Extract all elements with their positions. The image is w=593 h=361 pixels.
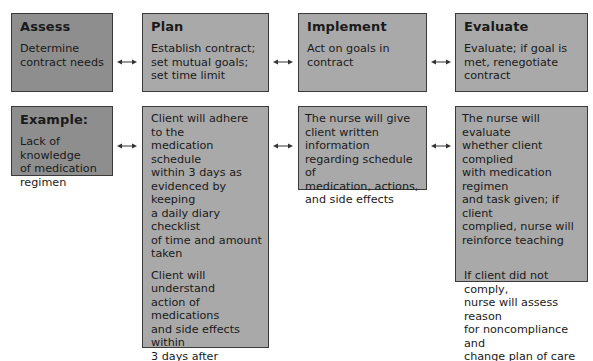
implement-example-text: The nurse will give client written infor… — [305, 112, 420, 207]
implement-text: Act on goals in contract — [307, 42, 420, 69]
plan-example-para-1: Client will adhere to the medication sch… — [151, 112, 262, 261]
assess-text: Determine contract needs — [20, 42, 106, 69]
example-box: Example: Lack of knowledge of medication… — [11, 106, 113, 176]
plan-example-box: Client will adhere to the medication sch… — [142, 106, 269, 348]
plan-box: Plan Establish contract; set mutual goal… — [142, 13, 269, 92]
plan-example-para-2: Client will understand action of medicat… — [151, 269, 262, 361]
double-headed-arrow-icon — [273, 59, 293, 65]
assess-box: Assess Determine contract needs — [11, 13, 113, 92]
implement-title: Implement — [307, 19, 420, 35]
evaluate-title: Evaluate — [464, 19, 581, 35]
double-headed-arrow-icon — [431, 59, 451, 65]
example-text: Lack of knowledge of medication regimen — [20, 135, 106, 189]
implement-box: Implement Act on goals in contract — [298, 13, 427, 92]
plan-text: Establish contract; set mutual goals; se… — [151, 42, 262, 83]
plan-title: Plan — [151, 19, 262, 35]
evaluate-example-box: The nurse will evaluate whether client c… — [455, 106, 588, 282]
example-title: Example: — [20, 112, 106, 128]
evaluate-example-para-2: If client did not comply, nurse will ass… — [464, 269, 581, 361]
double-headed-arrow-icon — [117, 59, 137, 65]
double-headed-arrow-icon — [117, 143, 137, 149]
double-headed-arrow-icon — [431, 143, 451, 149]
assess-title: Assess — [20, 19, 106, 35]
evaluate-example-para-1: The nurse will evaluate whether client c… — [462, 112, 581, 247]
evaluate-box: Evaluate Evaluate; if goal is met, reneg… — [455, 13, 588, 92]
evaluate-text: Evaluate; if goal is met, renegotiate co… — [464, 42, 581, 83]
implement-example-box: The nurse will give client written infor… — [298, 106, 427, 190]
double-headed-arrow-icon — [273, 143, 293, 149]
